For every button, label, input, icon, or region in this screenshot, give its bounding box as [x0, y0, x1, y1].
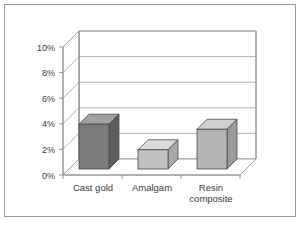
bar-cast-gold-front: [79, 124, 109, 169]
x-category-label-cast-gold: Cast gold: [73, 182, 113, 193]
x-category-label-resin-composite-line2: composite: [189, 193, 232, 204]
figure-frame: 0% 2% 4% 6% 8% 10% Cast gold Amalgam Res…: [4, 4, 296, 217]
bar-chart-3d: 0% 2% 4% 6% 8% 10% Cast gold Amalgam Res…: [5, 5, 297, 218]
bar-amalgam-front: [138, 150, 168, 169]
y-tick-label-8: 8%: [42, 68, 55, 78]
bar-cast-gold[interactable]: [79, 114, 119, 169]
chart-canvas: 0% 2% 4% 6% 8% 10% Cast gold Amalgam Res…: [5, 5, 297, 218]
bar-amalgam[interactable]: [138, 140, 178, 169]
y-tick-label-4: 4%: [42, 119, 55, 129]
y-tick-label-10: 10%: [37, 43, 55, 53]
bar-cast-gold-side: [109, 114, 119, 169]
x-category-label-resin-composite-line1: Resin: [199, 182, 223, 193]
bar-resin-composite[interactable]: [197, 119, 237, 169]
bar-resin-composite-front: [197, 129, 227, 169]
plot-left-wall: [63, 31, 79, 175]
y-tick-label-6: 6%: [42, 94, 55, 104]
x-category-label-amalgam: Amalgam: [132, 182, 172, 193]
screenshot-root: 0% 2% 4% 6% 8% 10% Cast gold Amalgam Res…: [0, 0, 304, 229]
y-tick-label-2: 2%: [42, 145, 55, 155]
y-tick-label-0: 0%: [42, 171, 55, 181]
